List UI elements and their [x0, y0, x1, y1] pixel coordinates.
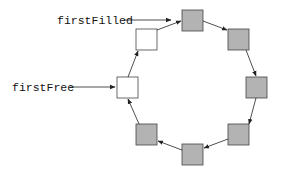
slot-upper-left [136, 29, 157, 50]
slot-left [117, 77, 138, 98]
slot-upper-right [228, 29, 249, 50]
arrow-bottom-to-lower-left [158, 141, 182, 150]
arrow-upper-right-to-right [246, 50, 256, 76]
slot-lower-right [228, 124, 249, 145]
circular-buffer-diagram: firstFilled firstFree [0, 0, 282, 172]
first-free-label: firstFree [12, 81, 74, 94]
first-filled-label: firstFilled [57, 14, 133, 27]
arrow-lower-left-to-left [128, 99, 139, 124]
slot-top [182, 10, 203, 31]
slot-right [246, 77, 267, 98]
arrow-right-to-lower-right [249, 98, 256, 124]
slot-bottom [182, 144, 203, 165]
arrow-left-to-upper-left [128, 51, 138, 77]
slot-lower-left [136, 124, 157, 145]
arrow-lower-right-to-bottom [204, 139, 228, 148]
arrow-top-to-upper-right [203, 21, 227, 30]
arrow-upper-left-to-top [157, 21, 181, 30]
